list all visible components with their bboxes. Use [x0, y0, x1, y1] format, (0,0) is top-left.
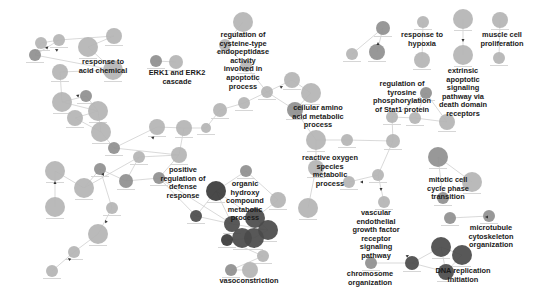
go-term-node[interactable] [376, 21, 390, 35]
go-term-node[interactable] [106, 28, 122, 44]
arrowhead-icon [462, 39, 465, 42]
cluster-label-c15: chromosomeorganization [347, 269, 393, 287]
go-term-node[interactable] [431, 237, 451, 257]
go-term-node[interactable] [453, 9, 473, 29]
node-sublabel [89, 245, 107, 246]
go-term-node[interactable] [190, 210, 202, 222]
node-sublabel [51, 81, 69, 82]
go-term-node[interactable] [483, 210, 495, 222]
go-term-node[interactable] [106, 202, 118, 214]
node-sublabel [187, 223, 205, 224]
go-term-node[interactable] [225, 264, 237, 276]
arrowhead-icon [75, 94, 79, 98]
go-term-node[interactable] [417, 16, 429, 28]
go-term-node[interactable] [46, 265, 58, 277]
cluster-label-c13: vascularendothelialgrowth factorreceptor… [352, 208, 399, 260]
go-term-node[interactable] [78, 37, 98, 57]
go-term-node[interactable] [492, 12, 508, 28]
go-term-node[interactable] [244, 228, 264, 248]
go-term-node[interactable] [301, 83, 321, 103]
go-term-node[interactable] [378, 196, 390, 208]
go-term-node[interactable] [52, 92, 72, 112]
go-term-node[interactable] [238, 97, 250, 109]
cluster-label-c1: response toacid chemical [79, 57, 127, 75]
node-sublabel [91, 176, 109, 177]
node-sublabel [207, 202, 225, 203]
node-sublabel [269, 209, 287, 210]
go-term-node[interactable] [414, 52, 430, 68]
go-term-node[interactable] [386, 134, 400, 148]
go-term-node[interactable] [45, 197, 65, 217]
node-sublabel [218, 247, 236, 248]
go-term-node[interactable] [240, 165, 252, 177]
node-sublabel [383, 124, 401, 125]
node-sublabel [245, 249, 263, 250]
go-term-node[interactable] [405, 256, 419, 270]
go-term-node[interactable] [284, 72, 300, 88]
go-term-node[interactable] [74, 178, 94, 198]
node-sublabel [211, 118, 229, 119]
go-term-node[interactable] [493, 52, 505, 64]
go-term-node[interactable] [176, 120, 192, 136]
node-sublabel [175, 137, 193, 138]
node-sublabel [429, 168, 447, 169]
go-term-node[interactable] [298, 198, 318, 218]
go-term-node[interactable] [91, 122, 111, 142]
go-term-node[interactable] [52, 64, 68, 80]
cluster-label-c4: cellular aminoacid metabolicprocess [292, 103, 343, 129]
go-term-node[interactable] [68, 246, 80, 258]
go-term-node[interactable] [94, 163, 106, 175]
go-term-node[interactable] [169, 55, 183, 69]
go-term-node[interactable] [80, 90, 92, 102]
go-term-node[interactable] [133, 151, 145, 163]
go-term-node[interactable] [306, 130, 326, 150]
go-term-node[interactable] [346, 48, 358, 60]
network-edge [100, 169, 112, 208]
go-term-node[interactable] [29, 49, 41, 61]
node-sublabel [374, 36, 392, 37]
cluster-label-c12: mitotic cellcycle phasetransition [427, 175, 469, 201]
go-term-node[interactable] [261, 86, 273, 98]
node-sublabel [438, 131, 456, 132]
cluster-label-c14: microtubulecytoskeletonorganization [468, 223, 514, 249]
go-term-node[interactable] [444, 212, 456, 224]
go-term-node[interactable] [45, 161, 65, 181]
go-term-node[interactable] [257, 250, 269, 262]
node-sublabel [75, 199, 93, 200]
go-term-node[interactable] [341, 134, 353, 146]
cluster-label-c7: muscle cellproliferation [480, 30, 524, 48]
cluster-label-c9: positiveregulation ofdefenseresponse [161, 165, 206, 200]
arrowhead-icon [360, 181, 363, 184]
cluster-label-c16: DNA replicationinitiation [435, 266, 491, 284]
go-term-node[interactable] [149, 119, 165, 135]
cluster-label-c3: regulation ofcysteine-typeendopeptidasea… [217, 30, 269, 91]
node-sublabel [104, 81, 122, 82]
go-term-node[interactable] [369, 44, 385, 60]
node-sublabel [105, 45, 123, 46]
go-term-node[interactable] [53, 34, 65, 46]
go-term-node[interactable] [171, 147, 187, 163]
go-term-node[interactable] [213, 103, 227, 117]
node-sublabel [340, 189, 358, 190]
go-term-node[interactable] [201, 123, 211, 133]
go-term-node[interactable] [428, 147, 448, 167]
cluster-label-c2: ERK1 and ERK2cascade [149, 68, 206, 86]
go-term-node[interactable] [119, 174, 133, 188]
go-term-node[interactable] [206, 181, 226, 201]
go-term-node[interactable] [150, 55, 162, 67]
node-sublabel [103, 215, 121, 216]
cluster-label-c10: organichydroxycompoundmetabolicprocess [226, 179, 264, 222]
go-term-node[interactable] [67, 110, 83, 126]
node-sublabel [441, 225, 459, 226]
go-term-node[interactable] [221, 234, 233, 246]
go-term-node[interactable] [88, 224, 108, 244]
node-sublabel [283, 89, 301, 90]
node-sublabel [338, 147, 356, 148]
go-term-node[interactable] [88, 101, 108, 121]
go-term-node[interactable] [453, 45, 473, 65]
go-term-node[interactable] [233, 12, 253, 32]
node-sublabel [343, 61, 361, 62]
go-term-node[interactable] [270, 192, 286, 208]
go-term-node[interactable] [372, 169, 384, 181]
go-term-node[interactable] [108, 142, 120, 154]
